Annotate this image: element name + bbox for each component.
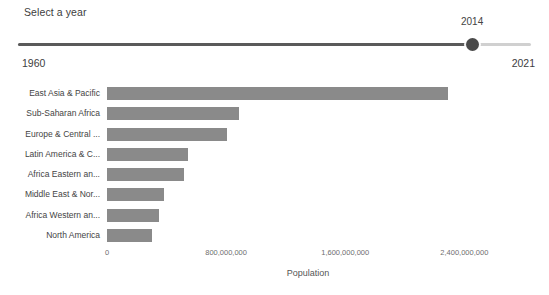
category-label: Africa Eastern an... — [28, 166, 100, 182]
year-slider[interactable] — [18, 38, 531, 52]
x-tick-label: 2,400,000,000 — [440, 248, 488, 257]
slider-value-label: 2014 — [430, 16, 514, 27]
x-tick-label: 800,000,000 — [205, 248, 247, 257]
category-label: North America — [46, 227, 100, 243]
category-label: East Asia & Pacific — [29, 85, 100, 101]
bar[interactable] — [107, 107, 239, 120]
bar-row: Latin America & C... — [107, 145, 509, 165]
slider-min-label: 1960 — [22, 57, 45, 69]
bar[interactable] — [107, 229, 152, 242]
bar[interactable] — [107, 188, 164, 201]
category-label: Africa Western an... — [26, 207, 100, 223]
category-label: Sub-Saharan Africa — [26, 105, 100, 121]
slider-max-label: 2021 — [512, 57, 535, 69]
bar-row: Africa Eastern an... — [107, 165, 509, 185]
bar[interactable] — [107, 209, 159, 222]
bar[interactable] — [107, 87, 448, 100]
category-label: Europe & Central ... — [25, 126, 100, 142]
bar-row: Middle East & Nor... — [107, 185, 509, 205]
bar-row: Europe & Central ... — [107, 125, 509, 145]
population-bar-chart: East Asia & PacificSub-Saharan AfricaEur… — [0, 80, 549, 295]
bar-row: Africa Western an... — [107, 206, 509, 226]
category-label: Middle East & Nor... — [25, 186, 100, 202]
slider-handle[interactable] — [466, 38, 479, 51]
slider-track-fill — [18, 43, 472, 46]
plot-area: East Asia & PacificSub-Saharan AfricaEur… — [107, 84, 509, 246]
x-tick-label: 1,600,000,000 — [321, 248, 369, 257]
x-tick-label: 0 — [105, 248, 109, 257]
bar-row: North America — [107, 226, 509, 246]
bar[interactable] — [107, 128, 227, 141]
year-slider-panel: Select a year 2014 1960 2021 — [0, 0, 549, 78]
category-label: Latin America & C... — [25, 146, 100, 162]
x-axis: 0800,000,0001,600,000,0002,400,000,000 — [0, 248, 549, 266]
bar[interactable] — [107, 148, 188, 161]
bar-row: East Asia & Pacific — [107, 84, 509, 104]
bar[interactable] — [107, 168, 184, 181]
slider-title: Select a year — [24, 6, 87, 18]
x-axis-title: Population — [107, 268, 509, 278]
bar-row: Sub-Saharan Africa — [107, 104, 509, 124]
